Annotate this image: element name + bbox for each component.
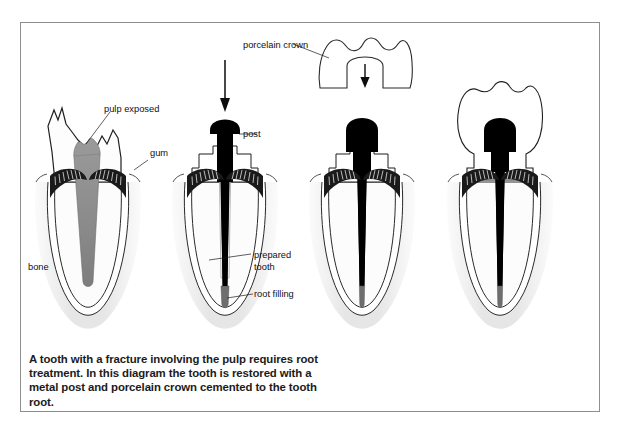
- label-post: post: [243, 129, 261, 139]
- panel-post-seated: [309, 118, 415, 329]
- label-prepared-tooth-line1: prepared: [254, 250, 291, 260]
- arrow-post-insertion: [220, 60, 230, 112]
- porcelain-crown-floating: [293, 38, 412, 88]
- label-bone: bone: [28, 262, 49, 272]
- label-pulp-exposed: pulp exposed: [104, 104, 159, 114]
- label-porcelain-crown: porcelain crown: [243, 40, 308, 50]
- figure-caption: A tooth with a fracture involving the pu…: [29, 352, 329, 409]
- label-prepared-tooth-line2: tooth: [254, 262, 275, 272]
- label-gum: gum: [150, 148, 168, 158]
- label-root-filling: root filling: [254, 289, 294, 299]
- panel-completed-restoration: [447, 82, 553, 329]
- panel-fractured-tooth: [35, 108, 148, 329]
- arrow-crown-seating: [360, 64, 369, 88]
